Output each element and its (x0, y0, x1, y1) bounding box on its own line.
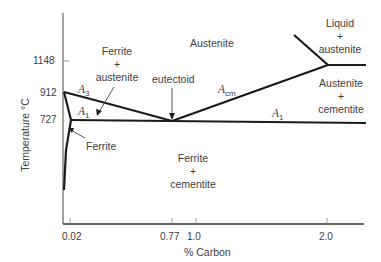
eutectoid-arrowhead (169, 113, 175, 120)
x-tick-label-0.77: 0.77 (160, 232, 179, 242)
y-axis-label: Temperature °C (19, 98, 31, 172)
a3-label: A3 (78, 84, 89, 98)
a1-right-label-main: A (272, 107, 279, 119)
eutectoid-label: eutectoid (152, 74, 195, 85)
x-tick-label-0.02: 0.02 (62, 232, 81, 242)
region-ferrite-cementite: Ferrite + cementite (170, 152, 216, 191)
a1-left-label: A1 (78, 106, 89, 120)
region-austenite: Austenite (190, 38, 234, 49)
acm-label-sub: cm (225, 89, 236, 98)
acm-line (172, 65, 328, 121)
region-liquid-austenite-line3: austenite (319, 43, 362, 56)
a1-right-label-sub: 1 (279, 113, 283, 122)
region-ferrite-cementite-line3: cementite (170, 178, 216, 191)
region-austenite-cementite-line1: Austenite (318, 77, 364, 90)
x-tick-label-1.0: 1.0 (187, 232, 201, 242)
y-tick-label-727: 727 (40, 115, 57, 125)
region-ferrite: Ferrite (86, 141, 116, 152)
a1-left-label-main: A (78, 105, 85, 117)
region-liquid-austenite-line2: + (319, 30, 362, 43)
acm-label: Acm (218, 84, 236, 98)
region-ferrite-cementite-line1: Ferrite (170, 152, 216, 165)
ferrite-austenite-arrowhead (96, 109, 102, 116)
a3-label-main: A (78, 83, 85, 95)
ferrite-austenite-arrow (99, 87, 114, 112)
region-ferrite-austenite-line2: + (96, 58, 139, 71)
a3-label-sub: 3 (85, 89, 89, 98)
a1-line (71, 120, 366, 123)
ferrite-arrow (71, 130, 85, 138)
y-tick-label-1148: 1148 (33, 56, 55, 66)
region-ferrite-austenite-line1: Ferrite (96, 45, 139, 58)
region-austenite-cementite: Austenite + cementite (318, 77, 364, 116)
a1-left-label-sub: 1 (85, 111, 89, 120)
a1-right-label: A1 (272, 108, 283, 122)
x-tick-label-2.0: 2.0 (319, 232, 333, 242)
region-ferrite-austenite: Ferrite + austenite (96, 45, 139, 84)
region-liquid-austenite: Liquid + austenite (319, 17, 362, 56)
region-austenite-cementite-line2: + (318, 90, 364, 103)
x-axis-label: % Carbon (184, 247, 231, 258)
acm-label-main: A (218, 83, 225, 95)
y-tick-label-912: 912 (40, 88, 57, 98)
ferrite-boundary (64, 92, 71, 190)
region-ferrite-cementite-line2: + (170, 165, 216, 178)
region-austenite-cementite-line3: cementite (318, 103, 364, 116)
region-liquid-austenite-line1: Liquid (319, 17, 362, 30)
region-ferrite-austenite-line3: austenite (96, 71, 139, 84)
